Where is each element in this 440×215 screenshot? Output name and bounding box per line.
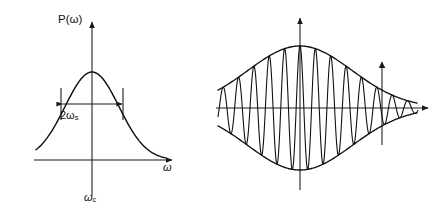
spectral-width-label: 2ωs [60,110,78,122]
center-frequency-symbol: ω [84,191,93,203]
gaussian-spectrum-curve [36,72,166,158]
spectral-width-prefix: 2ω [60,109,75,121]
panel-autocorrelation: E(τ)*E(0) τ = 1 ωs [210,0,440,215]
panel-power-spectrum: P(ω) ω ωc 2ωs [0,0,210,215]
gaussian-envelope-lower [218,113,417,170]
power-spectrum-axis-label: P(ω) [58,14,82,26]
center-frequency-subscript: c [93,195,97,204]
figure-root: P(ω) ω ωc 2ωs [0,0,440,215]
center-frequency-label: ωc [84,192,96,204]
power-spectrum-plot [0,0,210,215]
omega-axis-label: ω [163,162,172,173]
autocorrelation-plot [210,0,440,215]
spectral-width-subscript: s [75,113,79,122]
